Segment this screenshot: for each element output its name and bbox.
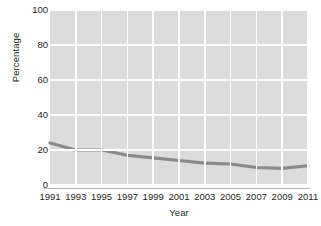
y-axis-tick-label-group: 020406080100 xyxy=(16,10,48,185)
gridline-vertical xyxy=(101,10,103,185)
line-chart-figure: Percentage 020406080100 1991199319951997… xyxy=(0,0,321,226)
x-axis-title: Year xyxy=(50,207,308,218)
gridline-vertical xyxy=(127,10,129,185)
x-axis-tick-label: 2011 xyxy=(288,191,321,203)
gridline-vertical xyxy=(204,10,206,185)
x-axis-baseline xyxy=(44,188,310,189)
gridline-vertical xyxy=(75,10,77,185)
y-axis-tick-label: 100 xyxy=(16,5,48,15)
gridline-vertical xyxy=(230,10,232,185)
plot-area xyxy=(50,10,308,185)
gridline-vertical xyxy=(281,10,283,185)
y-axis-tick-label: 60 xyxy=(16,75,48,85)
gridline-vertical xyxy=(178,10,180,185)
gridline-vertical xyxy=(307,10,309,185)
y-axis-tick-label: 20 xyxy=(16,145,48,155)
y-axis-tick-label: 80 xyxy=(16,40,48,50)
gridline-vertical xyxy=(256,10,258,185)
y-axis-tick-label: 40 xyxy=(16,110,48,120)
gridline-vertical xyxy=(152,10,154,185)
x-axis-tick-label-group: 1991199319951997199920012003200520072009… xyxy=(50,191,308,205)
